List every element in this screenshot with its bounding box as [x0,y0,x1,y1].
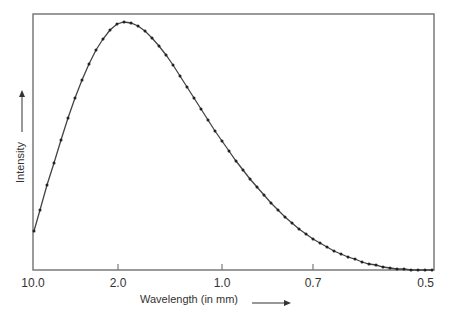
data-point [389,267,392,270]
data-point [95,49,98,52]
x-axis-arrow-icon [252,300,291,306]
x-tick-label: 10.0 [21,276,45,290]
x-tick-label: 0.5 [417,276,434,290]
data-point [228,150,231,153]
data-point [312,238,315,241]
x-tick-label: 1.0 [214,276,231,290]
data-point [326,246,329,249]
data-point [60,139,63,142]
y-axis-title: Intensity [14,142,26,183]
data-point [179,75,182,78]
data-point [375,264,378,267]
data-point [165,54,168,57]
data-point [186,86,189,89]
data-point [102,38,105,41]
data-point [158,45,161,48]
x-axis-tick-labels: 10.02.01.00.70.5 [21,276,434,290]
data-point [67,117,70,120]
data-point [74,97,77,100]
data-point [81,79,84,82]
data-point [319,242,322,245]
data-point [284,216,287,219]
data-point [431,269,434,272]
data-point [235,160,238,163]
plot-frame [33,14,434,270]
data-point [130,22,133,25]
intensity-curve [34,22,432,270]
data-point [368,263,371,266]
data-point [33,230,36,233]
data-point [417,269,420,272]
data-point [291,222,294,225]
data-point [151,37,154,40]
data-point [396,268,399,271]
x-tick-label: 0.7 [305,276,322,290]
data-point [354,258,357,261]
data-point [305,233,308,236]
data-point [193,97,196,100]
data-point [39,209,42,212]
data-point [116,23,119,26]
data-point [46,184,49,187]
data-point [123,21,126,24]
data-point [221,140,224,143]
data-point [109,29,112,32]
data-point [277,209,280,212]
data-point [207,119,210,122]
data-point [263,194,266,197]
data-point [200,108,203,111]
data-point [361,261,364,264]
data-point [298,228,301,231]
data-point [137,25,140,28]
data-point [347,256,350,259]
data-point [256,186,259,189]
data-point [340,253,343,256]
x-axis-title: Wavelength (in mm) [140,293,238,305]
data-point [88,63,91,66]
data-point [270,202,273,205]
data-point [403,268,406,271]
intensity-chart: 10.02.01.00.70.5 Wavelength (in mm) Inte… [0,0,452,322]
x-tick-label: 2.0 [110,276,127,290]
y-axis-arrow-icon [19,90,25,132]
data-point [382,266,385,269]
data-point [214,130,217,133]
data-point [144,30,147,33]
data-point [424,269,427,272]
data-point [333,250,336,253]
x-axis-ticks [118,264,313,270]
data-point [410,269,413,272]
data-point [249,178,252,181]
data-point [242,169,245,172]
data-point [53,162,56,165]
data-point [172,64,175,67]
